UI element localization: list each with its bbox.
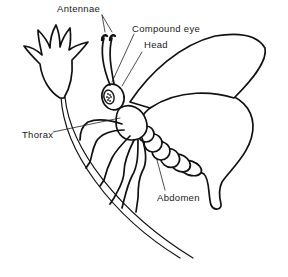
label-antennae: Antennae xyxy=(57,3,100,14)
label-abdomen: Abdomen xyxy=(157,192,200,203)
label-thorax: Thorax xyxy=(22,129,53,140)
label-compound-eye: Compound eye xyxy=(132,23,200,34)
label-head: Head xyxy=(144,39,168,50)
flower xyxy=(24,25,88,98)
antennae xyxy=(102,35,115,85)
butterfly-diagram: Antennae Compound eye Head Thorax Abdome… xyxy=(0,0,288,277)
